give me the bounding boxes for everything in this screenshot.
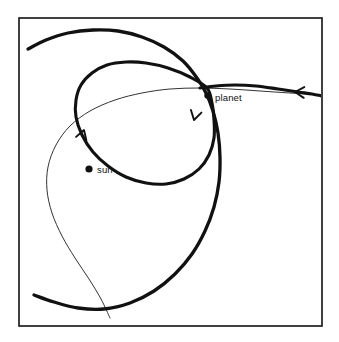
- orbital-diagram-figure: sun planet: [0, 0, 339, 342]
- sun-marker: [85, 165, 92, 172]
- diagram-canvas: sun planet: [0, 0, 339, 342]
- planet-marker: [204, 92, 210, 98]
- planet-label: planet: [215, 92, 242, 103]
- sun-label: sun: [97, 164, 113, 175]
